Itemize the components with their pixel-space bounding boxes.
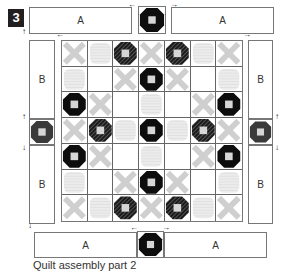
black-octagon-block	[139, 118, 165, 144]
black-octagon-block-icon	[62, 92, 87, 117]
striped-block	[62, 170, 88, 196]
striped-block-icon	[191, 41, 216, 66]
plain-block	[191, 67, 217, 93]
striped-block-icon	[113, 118, 138, 143]
cross-block-icon	[216, 118, 242, 143]
cross-block	[165, 67, 191, 93]
arrow-right-icon: →	[170, 1, 178, 9]
cross-block-icon	[62, 41, 87, 66]
figure-caption: Quilt assembly part 2	[33, 259, 136, 271]
arrow-left-icon: ←	[56, 31, 64, 39]
black-octagon-block-icon	[216, 92, 242, 117]
left-bottom-strip-b: B	[29, 145, 55, 224]
striped-octagon-block-icon	[113, 41, 138, 66]
right-bottom-strip-b: B	[248, 145, 273, 224]
bottom-left-strip-a: A	[34, 232, 137, 258]
cross-block-icon	[88, 92, 113, 117]
strip-label: A	[212, 240, 219, 251]
left-cornerstone	[29, 119, 55, 145]
striped-octagon-block	[113, 195, 139, 221]
striped-block	[191, 195, 217, 221]
striped-octagon-icon	[249, 120, 272, 144]
plain-block	[88, 67, 114, 93]
cross-block	[165, 170, 191, 196]
striped-block	[165, 118, 191, 144]
cross-block	[191, 144, 217, 170]
black-octagon-block	[216, 92, 242, 118]
striped-block	[216, 170, 242, 196]
cross-block-icon	[216, 41, 242, 66]
striped-octagon-block	[191, 118, 217, 144]
cross-block	[216, 118, 242, 144]
cross-block	[62, 41, 88, 67]
cross-block	[139, 195, 165, 221]
cross-block-icon	[139, 41, 164, 66]
strip-label: B	[257, 74, 264, 85]
strip-label: B	[257, 179, 264, 190]
striped-block	[62, 67, 88, 93]
striped-block	[191, 41, 217, 67]
striped-block	[88, 195, 114, 221]
arrow-down-icon: ↓	[22, 144, 26, 152]
black-octagon-block-icon	[139, 170, 164, 195]
arrow-up-icon: ↑	[275, 113, 279, 121]
striped-block-icon	[216, 170, 242, 195]
striped-block	[88, 41, 114, 67]
black-octagon-block-icon	[139, 118, 164, 143]
striped-octagon-block-icon	[191, 118, 216, 143]
step-number-badge: 3	[8, 9, 24, 27]
cross-block-icon	[62, 195, 87, 221]
arrow-down-icon: ↓	[28, 222, 32, 230]
cross-block	[88, 144, 114, 170]
striped-block	[139, 92, 165, 118]
striped-octagon-block-icon	[165, 41, 190, 66]
black-octagon-block	[216, 144, 242, 170]
strip-label: B	[39, 179, 46, 190]
top-right-strip-a: A	[171, 7, 274, 34]
bottom-cornerstone	[137, 231, 164, 258]
striped-block-icon	[165, 118, 190, 143]
cross-block	[113, 67, 139, 93]
striped-block-icon	[216, 67, 242, 92]
left-top-strip-b: B	[29, 40, 55, 119]
striped-block-icon	[62, 170, 87, 195]
cross-block	[62, 195, 88, 221]
cross-block-icon	[139, 195, 164, 221]
top-cornerstone	[138, 6, 166, 34]
cross-block-icon	[191, 144, 216, 169]
arrow-up-icon: ↑	[22, 113, 26, 121]
cross-block	[113, 170, 139, 196]
black-octagon-block	[139, 170, 165, 196]
striped-block	[216, 67, 242, 93]
striped-octagon-block-icon	[165, 195, 190, 221]
striped-block	[139, 144, 165, 170]
black-octagon-block	[62, 144, 88, 170]
plain-block	[113, 144, 139, 170]
striped-block-icon	[139, 92, 164, 117]
striped-octagon-block-icon	[113, 195, 138, 221]
cross-block-icon	[88, 144, 113, 169]
striped-octagon-icon	[30, 120, 54, 144]
striped-octagon-block-icon	[88, 118, 113, 143]
cross-block-icon	[165, 170, 190, 195]
cross-block	[191, 92, 217, 118]
plain-block	[88, 170, 114, 196]
striped-block	[113, 118, 139, 144]
black-octagon-block-icon	[62, 144, 87, 169]
black-octagon-block-icon	[216, 144, 242, 169]
right-cornerstone	[248, 119, 273, 145]
striped-block-icon	[139, 144, 164, 169]
cross-block-icon	[165, 67, 190, 92]
cross-block	[62, 118, 88, 144]
striped-octagon-block	[88, 118, 114, 144]
cross-block	[88, 92, 114, 118]
black-octagon-block	[62, 92, 88, 118]
black-octagon-block	[139, 67, 165, 93]
cross-block-icon	[216, 195, 242, 221]
quilt-center-grid	[61, 40, 243, 222]
striped-octagon-block	[165, 195, 191, 221]
arrow-left-icon: ←	[128, 1, 136, 9]
cross-block-icon	[191, 92, 216, 117]
plain-block	[165, 92, 191, 118]
cross-block	[216, 41, 242, 67]
